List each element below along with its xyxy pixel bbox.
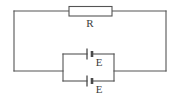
cell-bottom-label: E — [96, 83, 103, 95]
circuit-schematic: R E E — [0, 0, 178, 108]
resistor-symbol — [69, 7, 112, 17]
cell-top-label: E — [96, 56, 103, 68]
circuit-diagram-figure: R E E — [0, 0, 178, 108]
resistor-label: R — [86, 17, 94, 29]
